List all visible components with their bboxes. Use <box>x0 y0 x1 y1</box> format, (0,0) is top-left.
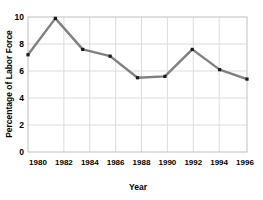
plot-area <box>0 0 263 200</box>
data-point-1988 <box>136 76 139 79</box>
data-point-1996 <box>245 78 248 81</box>
data-point-1984 <box>81 48 84 51</box>
line-chart: Percentage of Labor Force 10 8 6 4 2 0 <box>0 0 263 200</box>
data-point-1992 <box>191 48 194 51</box>
plot-background <box>28 17 247 152</box>
data-point-1980 <box>26 53 29 56</box>
data-point-1990 <box>163 75 166 78</box>
x-tick-label-1996: 1996 <box>228 158 262 167</box>
data-point-1982 <box>54 17 57 20</box>
x-axis-title: Year <box>28 182 248 192</box>
data-point-1986 <box>109 55 112 58</box>
data-point-1994 <box>218 68 221 71</box>
